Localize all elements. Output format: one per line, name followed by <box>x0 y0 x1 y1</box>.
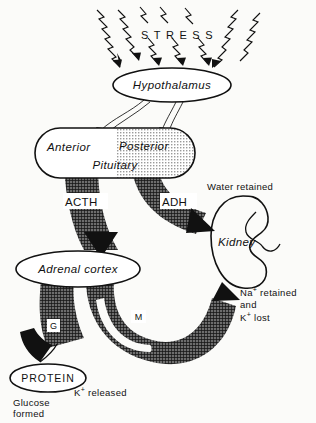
glucose-formed-label: Glucose formed <box>13 397 53 419</box>
stress-arrowhead-icon <box>132 53 141 62</box>
pituitary-label: Pituitary <box>92 159 138 171</box>
stress-arrowhead-icon <box>153 58 162 67</box>
stress-arrowhead-icon <box>212 59 221 68</box>
stress-bolt-icon <box>240 13 260 61</box>
mineralocorticoid-label: M <box>135 312 143 322</box>
anterior-pituitary-label: Anterior <box>46 141 91 153</box>
kidney-label: Kidney <box>218 236 256 248</box>
na-retained-label: Na+ retained <box>240 286 297 298</box>
acth-label: ACTH <box>65 196 98 208</box>
hypothalamus-label: Hypothalamus <box>133 79 211 91</box>
diagram-canvas: STRESS Hypothalamus Anterio <box>0 0 316 423</box>
stress-bolt-icon <box>140 7 148 23</box>
stress-bolt-icon <box>185 8 193 24</box>
mineralocorticoid-arrowhead-icon <box>212 282 240 301</box>
stress-bolt-icon <box>160 7 168 23</box>
stress-arrowhead-icon <box>177 58 186 67</box>
stress-bolt-icon <box>97 10 120 67</box>
protein-label: PROTEIN <box>21 372 75 384</box>
and-label: and <box>240 299 257 310</box>
glucocorticoid-label: G <box>50 321 57 331</box>
water-retained-label: Water retained <box>207 181 273 192</box>
posterior-pituitary-label: Posterior <box>119 140 169 152</box>
adh-label: ADH <box>162 196 187 208</box>
stress-bolt-icon <box>118 10 138 58</box>
stress-arrowhead-icon <box>203 58 212 67</box>
glucocorticoid-arrow-band <box>40 280 84 348</box>
stress-label: STRESS <box>141 29 218 41</box>
k-lost-label: K+ lost <box>240 311 270 323</box>
adrenal-cortex-label: Adrenal cortex <box>37 263 119 275</box>
stress-pathway-diagram: STRESS Hypothalamus Anterio <box>0 0 316 423</box>
k-released-label: K+ released <box>74 386 127 398</box>
stress-arrowhead-icon <box>113 60 122 69</box>
